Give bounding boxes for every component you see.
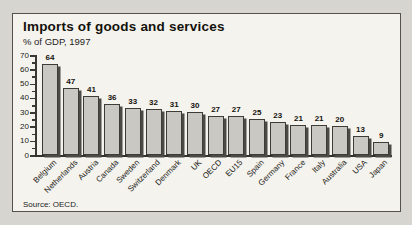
chart-title: Imports of goods and services <box>23 19 225 34</box>
y-minor-tick <box>32 119 35 121</box>
x-category-label: UK <box>189 158 203 172</box>
bar-uk <box>187 112 203 155</box>
bar-sweden <box>125 108 141 155</box>
bar-denmark <box>166 111 182 155</box>
y-axis-line <box>35 55 37 155</box>
y-major-tick <box>30 112 35 114</box>
y-major-tick <box>30 141 35 143</box>
y-major-tick <box>30 84 35 86</box>
x-category-label: OECD <box>201 158 224 181</box>
y-major-tick <box>30 155 35 157</box>
bar-oecd <box>208 116 224 155</box>
bar-usa <box>353 136 369 155</box>
y-tick-label: 40 <box>13 94 29 102</box>
y-minor-tick <box>32 62 35 64</box>
x-category-label: EU15 <box>224 158 245 179</box>
bar-italy <box>311 125 327 155</box>
chart-subtitle: % of GDP, 1997 <box>23 36 90 47</box>
y-tick-label: 50 <box>13 80 29 88</box>
bar-austria <box>83 96 99 155</box>
bar-value-label: 20 <box>328 115 352 124</box>
bar-belgium <box>42 64 58 155</box>
y-minor-tick <box>32 76 35 78</box>
y-minor-tick <box>32 105 35 107</box>
y-minor-tick <box>32 148 35 150</box>
y-minor-tick <box>32 134 35 136</box>
y-major-tick <box>30 55 35 57</box>
y-major-tick <box>30 126 35 128</box>
y-tick-label: 30 <box>13 109 29 117</box>
source-note: Source: OECD. <box>23 200 78 209</box>
y-major-tick <box>30 69 35 71</box>
bar-japan <box>373 142 389 155</box>
x-category-label: France <box>283 158 307 182</box>
bar-france <box>290 125 306 155</box>
x-category-label: USA <box>351 158 369 176</box>
x-category-label: Japan <box>368 158 390 180</box>
bar-australia <box>332 126 348 155</box>
bar-eu15 <box>228 116 244 155</box>
y-minor-tick <box>32 91 35 93</box>
bar-netherlands <box>63 88 79 155</box>
bar-value-label: 9 <box>369 131 393 140</box>
bar-canada <box>104 104 120 155</box>
page: { "chart_data": { "type": "bar", "title"… <box>0 0 412 225</box>
bar-value-label: 64 <box>38 53 62 62</box>
y-tick-label: 0 <box>13 152 29 160</box>
y-tick-label: 70 <box>13 52 29 60</box>
x-axis-line <box>35 155 392 157</box>
bar-switzerland <box>146 109 162 155</box>
x-category-label: Italy <box>311 158 328 175</box>
y-tick-label: 10 <box>13 137 29 145</box>
y-major-tick <box>30 98 35 100</box>
y-tick-label: 60 <box>13 66 29 74</box>
y-tick-label: 20 <box>13 123 29 131</box>
bar-germany <box>270 122 286 155</box>
chart-figure: Imports of goods and services % of GDP, … <box>12 13 401 212</box>
bar-spain <box>249 119 265 155</box>
